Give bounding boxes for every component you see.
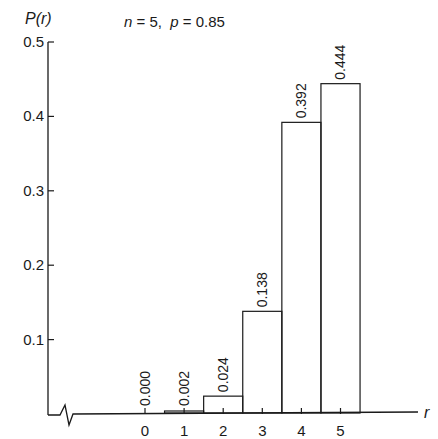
x-tick-label: 3	[258, 422, 266, 439]
x-tick-label: 0	[141, 422, 149, 439]
axes	[48, 42, 418, 425]
y-tick-label: 0.5	[23, 33, 44, 50]
x-tick-label: 4	[297, 422, 305, 439]
subtitle-n-value: = 5,	[132, 13, 170, 30]
chart-subtitle: n = 5, p = 0.85	[124, 13, 225, 30]
bar-value-label: 0.024	[215, 357, 231, 392]
subtitle-p-value: = 0.85	[179, 13, 225, 30]
bar-r-5	[321, 84, 360, 413]
bar-value-label: 0.002	[176, 371, 192, 406]
y-tick-label: 0.2	[23, 256, 44, 273]
x-tick-label: 5	[336, 422, 344, 439]
y-tick-label: 0.4	[23, 107, 44, 124]
x-tick-label: 1	[180, 422, 188, 439]
x-axis-title: r	[424, 404, 430, 421]
bar-value-label: 0.000	[137, 371, 153, 406]
y-tick-label: 0.3	[23, 182, 44, 199]
y-ticks: 0.10.20.30.40.5	[23, 33, 54, 348]
binomial-distribution-chart: 0.10.20.30.40.5 012345 0.0000.0020.0240.…	[0, 0, 438, 439]
subtitle-n-symbol: n	[124, 13, 132, 30]
y-axis-title: P(r)	[25, 10, 52, 27]
bar-r-4	[282, 122, 321, 413]
bar-value-label: 0.138	[254, 272, 270, 307]
bar-r-3	[243, 311, 282, 413]
subtitle-p-symbol: p	[169, 13, 178, 30]
x-axis-with-break	[48, 405, 418, 425]
bars	[165, 84, 361, 413]
y-tick-label: 0.1	[23, 331, 44, 348]
x-tick-label: 2	[219, 422, 227, 439]
bar-value-label: 0.392	[293, 83, 309, 118]
bar-value-label: 0.444	[333, 44, 349, 79]
